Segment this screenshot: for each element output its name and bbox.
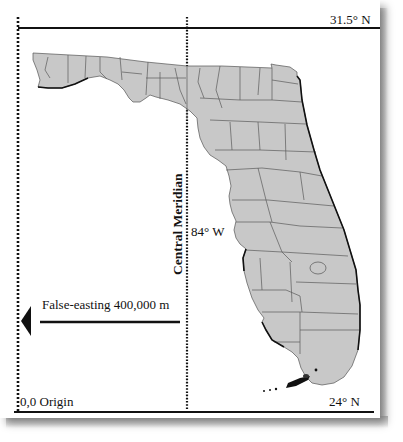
central-meridian-label: Central Meridian — [170, 173, 186, 275]
florida-map — [33, 53, 360, 385]
top-parallel-label: 31.5° N — [330, 12, 371, 28]
origin-label: 0,0 Origin — [20, 394, 73, 410]
meridian-value-label: 84° W — [191, 224, 224, 240]
lake-okeechobee — [310, 262, 326, 274]
projection-diagram — [0, 0, 403, 442]
florida-outline — [33, 53, 360, 385]
false-easting-label: False-easting 400,000 m — [42, 297, 169, 313]
bottom-parallel-label: 24° N — [329, 394, 360, 410]
